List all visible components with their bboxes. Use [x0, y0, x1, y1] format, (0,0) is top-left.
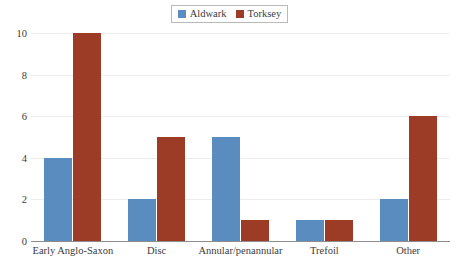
x-axis: Early Anglo-SaxonDiscAnnular/penannularT… [31, 244, 450, 257]
legend-swatch-torksey [236, 10, 244, 18]
bar-groups [31, 33, 450, 241]
bar-aldwark[interactable] [44, 158, 72, 241]
bar-group [199, 33, 283, 241]
bar-group [115, 33, 199, 241]
y-axis-tick-label: 4 [22, 152, 27, 163]
x-axis-tick-label: Trefoil [282, 244, 366, 257]
bar-aldwark[interactable] [212, 137, 240, 241]
legend-entry-aldwark[interactable]: Aldwark [178, 8, 227, 19]
bar-torksey[interactable] [241, 220, 269, 241]
y-axis-tick-label: 8 [22, 69, 27, 80]
x-axis-tick-label: Early Anglo-Saxon [31, 244, 115, 257]
x-axis-tick-label: Disc [115, 244, 199, 257]
bar-group [282, 33, 366, 241]
bar-torksey[interactable] [409, 116, 437, 241]
x-axis-line [31, 241, 450, 242]
y-axis-tick-label: 0 [22, 236, 27, 247]
x-axis-tick-label: Other [366, 244, 450, 257]
y-axis-tick-label: 10 [17, 28, 28, 39]
x-axis-tick-label: Annular/penannular [199, 244, 283, 257]
y-axis: 0246810 [0, 33, 27, 241]
legend-label-aldwark: Aldwark [190, 8, 227, 19]
bar-group [366, 33, 450, 241]
y-axis-tick-label: 6 [22, 111, 27, 122]
bar-chart: Aldwark Torksey 0246810 Early Anglo-Saxo… [0, 0, 459, 276]
legend-box: Aldwark Torksey [171, 5, 288, 23]
bar-torksey[interactable] [325, 220, 353, 241]
legend-entry-torksey[interactable]: Torksey [236, 8, 282, 19]
bar-aldwark[interactable] [296, 220, 324, 241]
plot-area [31, 33, 450, 241]
bar-group [31, 33, 115, 241]
chart-legend: Aldwark Torksey [0, 5, 459, 23]
y-axis-tick-label: 2 [22, 194, 27, 205]
bar-torksey[interactable] [157, 137, 185, 241]
legend-swatch-aldwark [178, 10, 186, 18]
bar-aldwark[interactable] [380, 199, 408, 241]
legend-label-torksey: Torksey [248, 8, 282, 19]
bar-aldwark[interactable] [128, 199, 156, 241]
bar-torksey[interactable] [73, 33, 101, 241]
